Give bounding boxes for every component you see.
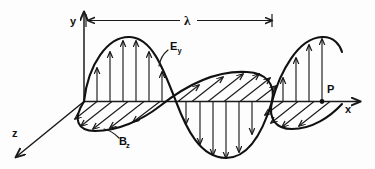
b-arrow <box>299 102 330 127</box>
em-wave-diagram: y x z λ E y B z P <box>0 0 375 169</box>
point-p-label: P <box>327 83 334 95</box>
e-field-arrows <box>97 39 322 158</box>
b-arrow <box>240 78 270 102</box>
b-arrow <box>93 102 128 130</box>
e-field-label-subscript: y <box>178 46 183 55</box>
b-arrow <box>271 102 298 124</box>
point-p-dot <box>320 99 325 104</box>
em-wave-figure: y x z λ E y B z P <box>0 0 375 169</box>
wave-curves <box>78 37 342 158</box>
wavelength-label: λ <box>184 13 191 28</box>
b-arrow <box>282 102 314 128</box>
z-axis-label: z <box>12 127 18 139</box>
z-axis <box>16 102 84 158</box>
axes-group <box>16 12 360 157</box>
point-p-group <box>320 99 325 104</box>
wavelength-measure <box>86 14 272 27</box>
e-field-label: E <box>170 40 177 52</box>
b-arrow <box>192 77 223 102</box>
b-arrow <box>224 74 259 102</box>
b-arrow <box>208 74 243 102</box>
x-axis-label: x <box>345 103 352 115</box>
y-axis-label: y <box>70 15 77 27</box>
b-field-label-subscript: z <box>126 141 130 150</box>
b-arrow <box>81 102 112 127</box>
b-arrow <box>133 102 160 123</box>
text-labels: y x z λ E y B z P <box>12 13 352 150</box>
